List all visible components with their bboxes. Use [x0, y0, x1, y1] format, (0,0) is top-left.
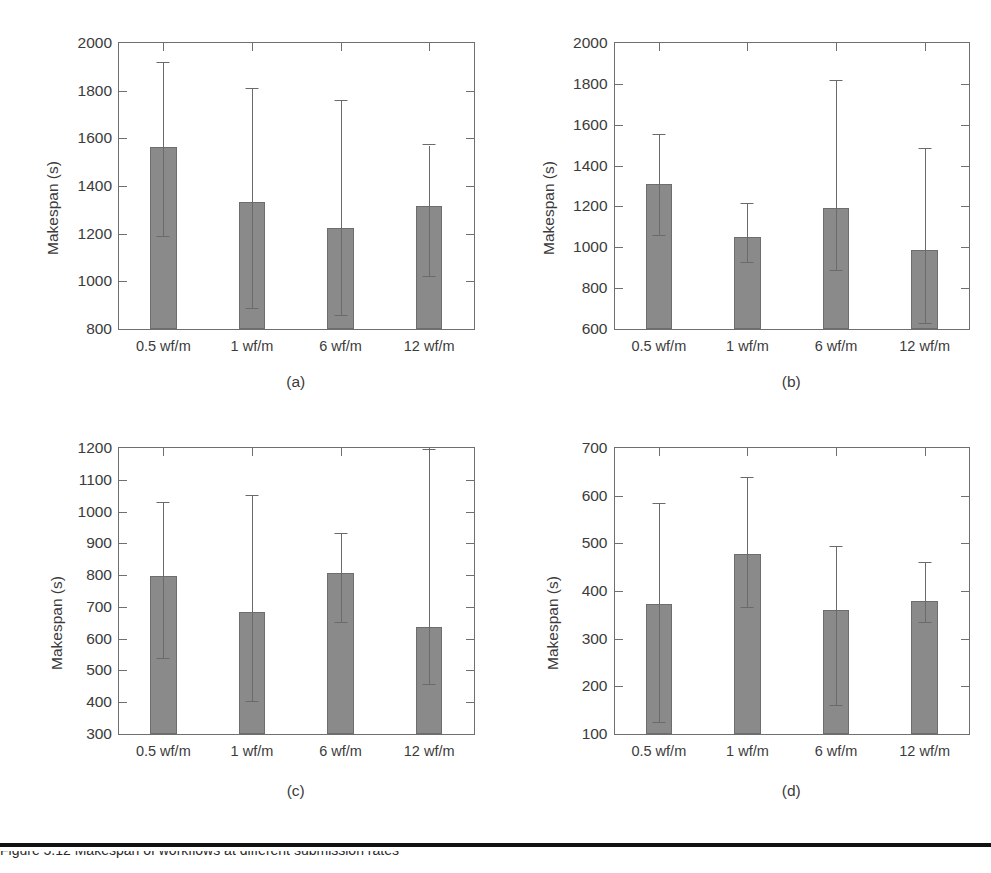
- y-axis-tick-label: 1600: [573, 116, 607, 134]
- x-axis-tick-label: 1 wf/m: [726, 743, 769, 759]
- plot-area-b: 6008001000120014001600180020000.5 wf/m1 …: [614, 42, 971, 330]
- error-bar: [747, 478, 748, 608]
- y-axis-tick-label: 400: [86, 693, 112, 711]
- y-axis-tick: [466, 702, 474, 703]
- y-axis-tick-label: 1800: [78, 82, 112, 100]
- error-bar: [163, 63, 164, 237]
- y-axis-tick: [466, 512, 474, 513]
- y-axis-title-a: Makespan (s): [44, 161, 62, 255]
- x-axis-tick-label: 1 wf/m: [726, 338, 769, 354]
- plot-area-d: 1002003004005006007000.5 wf/m1 wf/m6 wf/…: [614, 447, 971, 735]
- y-axis-tick: [466, 234, 474, 235]
- x-axis-tick-label: 6 wf/m: [815, 338, 858, 354]
- y-axis-tick: [961, 543, 969, 544]
- error-bar: [429, 146, 430, 277]
- error-bar-cap-upper: [245, 495, 258, 496]
- y-axis-tick: [466, 607, 474, 608]
- y-axis-tick: [466, 639, 474, 640]
- x-axis-tick-label: 6 wf/m: [319, 743, 362, 759]
- x-axis-tick: [341, 448, 342, 456]
- error-bar-cap-upper: [918, 562, 931, 563]
- plot-area-a: 8001000120014001600180020000.5 wf/m1 wf/…: [118, 42, 475, 330]
- y-axis-tick: [119, 702, 127, 703]
- error-bar: [341, 534, 342, 623]
- x-axis-tick-label: 0.5 wf/m: [136, 338, 191, 354]
- figure-panel-grid: Makespan (s) 800100012001400160018002000…: [0, 0, 991, 830]
- error-bar: [252, 89, 253, 308]
- y-axis-tick: [961, 288, 969, 289]
- error-bar-cap-lower: [334, 315, 347, 316]
- y-axis-tick: [961, 639, 969, 640]
- y-axis-tick-label: 600: [582, 320, 608, 338]
- x-axis-tick-label: 12 wf/m: [899, 338, 950, 354]
- y-axis-tick-label: 500: [86, 661, 112, 679]
- x-axis-tick: [747, 448, 748, 456]
- y-axis-tick: [466, 138, 474, 139]
- y-axis-tick-label: 2000: [78, 34, 112, 52]
- y-axis-tick-label: 300: [86, 725, 112, 743]
- x-axis-tick: [836, 43, 837, 51]
- error-bar: [836, 547, 837, 706]
- y-axis-tick-label: 900: [86, 534, 112, 552]
- error-bar-cap-upper: [157, 502, 170, 503]
- y-axis-tick-label: 100: [582, 725, 608, 743]
- y-axis-tick: [961, 686, 969, 687]
- panel-caption-a: (a): [0, 373, 496, 391]
- y-axis-tick-label: 200: [582, 677, 608, 695]
- error-bar: [659, 504, 660, 723]
- error-bar-cap-lower: [157, 236, 170, 237]
- x-axis-tick: [252, 448, 253, 456]
- y-axis-tick-label: 2000: [573, 34, 607, 52]
- y-axis-tick: [466, 575, 474, 576]
- error-bar-cap-lower: [918, 622, 931, 623]
- y-axis-tick: [119, 138, 127, 139]
- error-bar-cap-lower: [245, 701, 258, 702]
- y-axis-tick-label: 1000: [573, 238, 607, 256]
- chart-panel-c: Makespan (s) 300400500600700800900100011…: [0, 415, 496, 830]
- x-axis-tick-label: 6 wf/m: [815, 743, 858, 759]
- y-axis-tick: [119, 639, 127, 640]
- y-axis-tick: [615, 84, 623, 85]
- x-axis-tick: [925, 448, 926, 456]
- error-bar-cap-upper: [157, 62, 170, 63]
- y-axis-title-d: Makespan (s): [543, 576, 561, 670]
- x-axis-tick: [252, 43, 253, 51]
- page-divider-rule: [0, 843, 991, 847]
- error-bar-cap-upper: [245, 88, 258, 89]
- x-axis-tick-label: 0.5 wf/m: [631, 743, 686, 759]
- y-axis-tick: [615, 166, 623, 167]
- y-axis-tick: [466, 543, 474, 544]
- error-bar-cap-lower: [652, 722, 665, 723]
- error-bar-cap-lower: [423, 684, 436, 685]
- y-axis-tick-label: 1200: [78, 439, 112, 457]
- y-axis-tick: [615, 496, 623, 497]
- x-axis-tick-label: 6 wf/m: [319, 338, 362, 354]
- y-axis-tick: [961, 496, 969, 497]
- error-bar: [659, 135, 660, 236]
- y-axis-tick: [961, 125, 969, 126]
- x-axis-tick-label: 0.5 wf/m: [136, 743, 191, 759]
- y-axis-tick: [466, 480, 474, 481]
- y-axis-tick-label: 500: [582, 534, 608, 552]
- y-axis-tick-label: 300: [582, 630, 608, 648]
- y-axis-tick-label: 1000: [78, 272, 112, 290]
- y-axis-tick: [119, 670, 127, 671]
- x-axis-tick-label: 1 wf/m: [231, 743, 274, 759]
- y-axis-title-c: Makespan (s): [48, 576, 66, 670]
- error-bar-cap-lower: [423, 276, 436, 277]
- chart-panel-b: Makespan (s) 600800100012001400160018002…: [496, 0, 991, 415]
- y-axis-tick: [119, 91, 127, 92]
- error-bar-cap-lower: [741, 262, 754, 263]
- y-axis-tick: [119, 186, 127, 187]
- y-axis-tick-label: 800: [582, 279, 608, 297]
- error-bar: [163, 503, 164, 659]
- error-bar-cap-upper: [741, 477, 754, 478]
- chart-panel-d: Makespan (s) 1002003004005006007000.5 wf…: [496, 415, 991, 830]
- y-axis-tick-label: 600: [86, 630, 112, 648]
- x-axis-tick: [925, 43, 926, 51]
- x-axis-tick: [163, 448, 164, 456]
- y-axis-tick: [119, 575, 127, 576]
- error-bar-cap-lower: [918, 323, 931, 324]
- y-axis-tick: [615, 206, 623, 207]
- error-bar: [747, 204, 748, 262]
